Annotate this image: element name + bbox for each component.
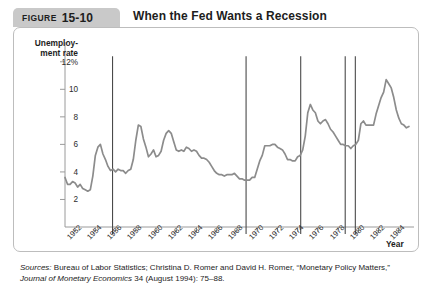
y-axis-title-line1: Unemploy- — [22, 38, 78, 48]
figure-header: FIGURE 15-10 When the Fed Wants a Recess… — [13, 8, 421, 27]
x-axis-tick-label: 1982 — [368, 223, 386, 241]
x-axis-title: Year — [386, 239, 404, 249]
figure-number-tab: FIGURE 15-10 — [13, 8, 120, 27]
figure-root: FIGURE 15-10 When the Fed Wants a Recess… — [0, 0, 434, 296]
x-axis-tick-label: 1954 — [85, 223, 103, 241]
source-journal: Journal of Monetary Economics — [20, 274, 132, 283]
figure-label: FIGURE — [22, 13, 57, 23]
source-line2-a: Policy Matters,” — [335, 263, 390, 272]
chart-plot-area: 24681012% 195219541956195819601962196419… — [14, 28, 420, 253]
x-axis-tick-label: 1970 — [247, 223, 265, 241]
figure-title: When the Fed Wants a Recession — [133, 9, 327, 23]
figure-panel: 24681012% 195219541956195819601962196419… — [13, 27, 419, 252]
figure-number: 15-10 — [62, 11, 93, 25]
source-line1: Bureau of Labor Statistics; Christina D.… — [52, 263, 333, 272]
x-axis-ticks: 1952195419561958196019621964196619681970… — [14, 28, 420, 253]
x-axis-tick-label: 1972 — [267, 223, 285, 241]
y-axis-title-line2: ment rate — [22, 48, 78, 58]
x-axis-tick-label: 1980 — [348, 223, 366, 241]
x-axis-tick-label: 1956 — [105, 223, 123, 241]
x-axis-tick-label: 1976 — [307, 223, 325, 241]
x-axis-tick-label: 1968 — [226, 223, 244, 241]
source-line2-b: 34 (August 1994): 75–88. — [132, 274, 225, 283]
x-axis-tick-label: 1966 — [206, 223, 224, 241]
x-axis-tick-label: 1958 — [125, 223, 143, 241]
x-axis-tick-label: 1974 — [287, 223, 305, 241]
x-axis-tick-label: 1962 — [166, 223, 184, 241]
source-prefix: Sources: — [20, 263, 52, 272]
x-axis-tick-label: 1952 — [65, 223, 83, 241]
x-axis-tick-label: 1960 — [146, 223, 164, 241]
x-axis-tick-label: 1964 — [186, 223, 204, 241]
x-axis-tick-label: 1978 — [328, 223, 346, 241]
source-note: Sources: Bureau of Labor Statistics; Chr… — [20, 262, 412, 284]
